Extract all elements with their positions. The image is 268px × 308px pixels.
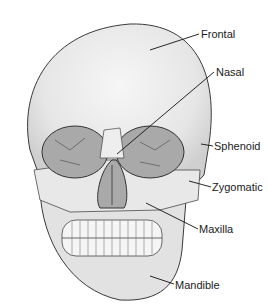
label-maxilla: Maxilla [199, 223, 233, 235]
skull-illustration [0, 0, 268, 308]
left-orbit [42, 126, 108, 178]
right-orbit [116, 126, 184, 178]
label-zygomatic: Zygomatic [212, 181, 263, 193]
skull-diagram: Frontal Nasal Sphenoid Zygomatic Maxilla… [0, 0, 268, 308]
label-mandible: Mandible [175, 279, 220, 291]
nasal-bone [100, 128, 124, 158]
label-nasal: Nasal [216, 66, 244, 78]
label-sphenoid: Sphenoid [214, 140, 261, 152]
label-frontal: Frontal [201, 28, 235, 40]
